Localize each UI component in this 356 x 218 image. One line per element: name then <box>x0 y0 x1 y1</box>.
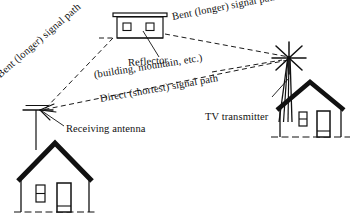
reflector-window-left <box>123 23 131 31</box>
reflector-window-right <box>146 23 154 31</box>
receiver-house-door <box>57 183 71 212</box>
reflector-underline-dash <box>212 60 282 72</box>
label-tv-transmitter: TV transmitter <box>205 111 268 122</box>
label-receiving-antenna: Receiving antenna <box>66 123 146 134</box>
signal-multipath-diagram: Bent (longer) signal path Bent (longer) … <box>0 0 356 218</box>
transmitter-house-door <box>317 111 330 137</box>
receiver-house-roof <box>18 143 92 181</box>
bent-path-incoming <box>165 34 289 57</box>
transmitter-house-roof <box>277 82 344 110</box>
signal-path-group <box>42 34 289 110</box>
antenna-elements <box>40 104 56 120</box>
receiver-house <box>14 143 96 212</box>
receiving-antenna-leader-line <box>42 111 64 126</box>
reflector-building <box>113 13 167 57</box>
